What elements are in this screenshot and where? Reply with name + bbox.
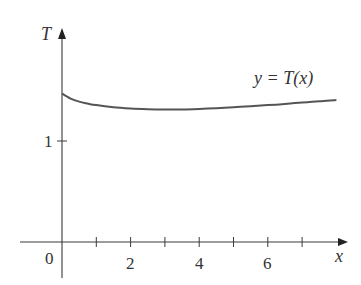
y-axis-label: T <box>41 24 53 44</box>
x-tick-label-2: 2 <box>126 254 135 273</box>
curve-t-of-x <box>62 94 336 110</box>
x-axis-arrow-icon <box>338 238 348 246</box>
origin-label: 0 <box>45 249 54 268</box>
chart: T x 0 1 2 4 6 y = T(x) <box>0 0 361 285</box>
y-axis-arrow-icon <box>58 28 66 39</box>
x-axis-label: x <box>334 246 343 266</box>
y-tick-label-1: 1 <box>44 132 53 151</box>
x-tick-label-6: 6 <box>263 254 272 273</box>
curve-label: y = T(x) <box>252 68 313 89</box>
x-tick-label-4: 4 <box>195 254 204 273</box>
